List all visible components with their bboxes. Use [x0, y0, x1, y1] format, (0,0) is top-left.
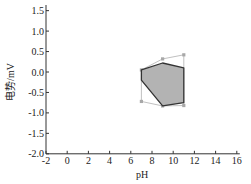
y-tick-label: -1.5: [28, 128, 44, 139]
outer-boundary-marker: [161, 57, 164, 60]
x-tick-label: 2: [86, 155, 91, 166]
x-tick-label: 10: [168, 155, 178, 166]
x-tick-label: 8: [150, 155, 155, 166]
x-tick-label: 14: [211, 155, 221, 166]
x-tick-label: 6: [128, 155, 133, 166]
y-axis: -2.0-1.5-1.0-0.50.00.51.01.5: [28, 5, 49, 159]
shaded-region: [141, 63, 183, 106]
x-axis: -20246810121416: [42, 151, 242, 166]
y-tick-label: -2.0: [28, 148, 44, 159]
outer-boundary-marker: [182, 53, 185, 56]
outer-boundary-marker: [182, 104, 185, 107]
y-tick-label: -0.5: [28, 87, 44, 98]
y-tick-label: 0.5: [32, 46, 45, 57]
y-tick-label: 1.0: [32, 26, 45, 37]
x-tick-label: 16: [232, 155, 242, 166]
x-tick-label: 12: [189, 155, 199, 166]
y-tick-label: 0.0: [32, 67, 45, 78]
y-axis-title: 电势/mV: [4, 62, 16, 101]
outer-boundary-marker: [140, 100, 143, 103]
y-tick-label: -1.0: [28, 107, 44, 118]
x-axis-title: pH: [136, 169, 148, 180]
chart: -20246810121416 -2.0-1.5-1.0-0.50.00.51.…: [0, 0, 251, 184]
x-tick-label: 0: [65, 155, 70, 166]
plot-area: [140, 53, 186, 107]
x-tick-label: 4: [107, 155, 112, 166]
y-tick-label: 1.5: [32, 5, 45, 16]
